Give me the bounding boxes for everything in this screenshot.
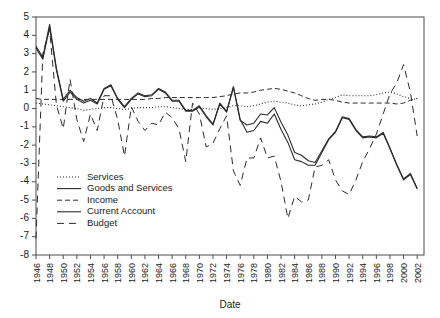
x-tick-label: 2002 bbox=[413, 263, 423, 283]
y-tick-label: 2 bbox=[23, 66, 29, 77]
x-tick-label: 1990 bbox=[331, 263, 341, 283]
x-tick-label: 1978 bbox=[249, 263, 259, 283]
x-tick-label: 1962 bbox=[140, 263, 150, 283]
x-tick-label: 1974 bbox=[222, 263, 232, 283]
x-tick-label: 1992 bbox=[345, 263, 355, 283]
x-tick-label: 1996 bbox=[372, 263, 382, 283]
legend-label: Goods and Services bbox=[87, 182, 173, 193]
y-tick-label: -2 bbox=[20, 139, 29, 150]
y-tick-label: 5 bbox=[23, 11, 29, 22]
y-tick-label: 0 bbox=[23, 102, 29, 113]
x-axis-ticks bbox=[36, 255, 417, 259]
y-tick-label: -6 bbox=[20, 212, 29, 223]
y-tick-label: -4 bbox=[20, 175, 29, 186]
x-axis-title: Date bbox=[219, 299, 241, 310]
y-tick-label: -8 bbox=[20, 249, 29, 260]
x-tick-label: 1986 bbox=[304, 263, 314, 283]
x-tick-label: 1980 bbox=[263, 263, 273, 283]
x-tick-label: 1958 bbox=[113, 263, 123, 283]
x-tick-label: 1946 bbox=[32, 263, 42, 283]
x-tick-label: 1966 bbox=[168, 263, 178, 283]
x-tick-label: 1954 bbox=[86, 263, 96, 283]
y-axis-ticks bbox=[32, 17, 36, 255]
x-tick-label: 1976 bbox=[236, 263, 246, 283]
x-tick-label: 1998 bbox=[385, 263, 395, 283]
y-tick-label: -1 bbox=[20, 120, 29, 131]
x-tick-label: 1956 bbox=[100, 263, 110, 283]
x-tick-label: 1970 bbox=[195, 263, 205, 283]
x-tick-label: 1948 bbox=[45, 263, 55, 283]
y-tick-label: 4 bbox=[23, 29, 29, 40]
x-tick-label: 2000 bbox=[399, 263, 409, 283]
legend-label: Services bbox=[87, 171, 124, 182]
x-tick-label: 1952 bbox=[72, 263, 82, 283]
x-tick-label: 1950 bbox=[59, 263, 69, 283]
y-tick-label: -3 bbox=[20, 157, 29, 168]
line-chart: 543210-1-2-3-4-5-6-7-8 19461948195019521… bbox=[0, 0, 440, 318]
y-tick-label: 3 bbox=[23, 47, 29, 58]
x-tick-label: 1960 bbox=[127, 263, 137, 283]
x-tick-label: 1988 bbox=[317, 263, 327, 283]
y-tick-label: -7 bbox=[20, 230, 29, 241]
chart-container: 543210-1-2-3-4-5-6-7-8 19461948195019521… bbox=[0, 0, 440, 318]
series-line-goods-and-services bbox=[36, 24, 417, 189]
x-tick-label: 1982 bbox=[277, 263, 287, 283]
legend-label: Income bbox=[87, 194, 118, 205]
x-tick-label: 1994 bbox=[358, 263, 368, 283]
x-tick-label: 1964 bbox=[154, 263, 164, 283]
chart-legend: ServicesGoods and ServicesIncomeCurrent … bbox=[57, 171, 173, 228]
x-tick-label: 1984 bbox=[290, 263, 300, 283]
y-tick-label: 1 bbox=[23, 84, 29, 95]
x-tick-label: 1972 bbox=[208, 263, 218, 283]
legend-label: Budget bbox=[87, 217, 117, 228]
y-axis-tick-labels: 543210-1-2-3-4-5-6-7-8 bbox=[20, 11, 29, 260]
x-axis-tick-labels: 1946194819501952195419561958196019621964… bbox=[32, 263, 423, 283]
x-tick-label: 1968 bbox=[181, 263, 191, 283]
y-tick-label: -5 bbox=[20, 194, 29, 205]
legend-label: Current Account bbox=[87, 205, 155, 216]
